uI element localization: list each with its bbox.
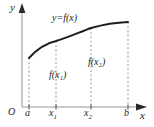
tick-label-a-base: a [25, 107, 30, 118]
y-axis-label: y [10, 2, 15, 13]
drop-lines [29, 22, 128, 106]
tick-label-b: b [124, 108, 129, 121]
y-axis [19, 3, 26, 107]
x-axis-label: x [140, 110, 145, 121]
tick-label-x2: x2 [84, 108, 92, 121]
tick-label-x1-sub: 1 [53, 113, 57, 121]
y-axis-arrow-icon [19, 3, 26, 13]
function-curve [29, 22, 128, 58]
value-label-fx1: f(x₁) [49, 70, 66, 80]
value-label-fx2: f(x₂) [88, 57, 105, 67]
curve-label: y=f(x) [52, 13, 77, 23]
tick-label-b-base: b [124, 107, 129, 118]
tick-label-x1: x1 [49, 108, 57, 121]
tick-label-x2-sub: 2 [88, 113, 92, 121]
tick-label-a: a [25, 108, 30, 121]
function-graph-figure: y x O a x1 x2 b y=f(x) f(x₁) f(x₂) [0, 0, 154, 127]
origin-label: O [8, 107, 15, 117]
